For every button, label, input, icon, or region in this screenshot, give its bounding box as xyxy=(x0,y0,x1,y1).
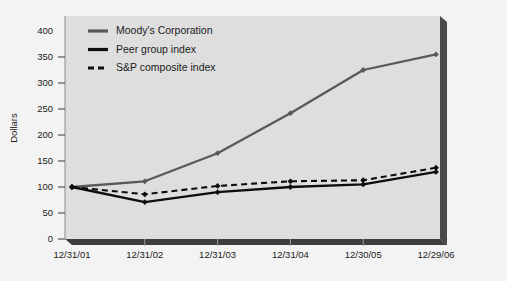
y-axis-tick-label: 100 xyxy=(37,181,53,192)
bottom-axis-floor xyxy=(65,239,447,245)
stock-performance-chart: 050100150200250300350400 Dollars 12/31/0… xyxy=(0,0,507,281)
x-axis-tick-label: 12/31/03 xyxy=(199,249,236,260)
right-axis-wall xyxy=(440,16,447,245)
y-axis-tick-label: 300 xyxy=(37,77,53,88)
legend-label: Peer group index xyxy=(116,43,197,55)
x-axis-tick-label: 12/31/02 xyxy=(126,249,163,260)
x-axis-tick-label: 12/29/06 xyxy=(418,249,455,260)
y-axis-tick-label: 0 xyxy=(48,233,53,244)
legend-label: Moody's Corporation xyxy=(116,24,213,36)
y-axis-tick-label: 250 xyxy=(37,103,53,114)
y-axis-tick-label: 400 xyxy=(37,25,53,36)
y-axis-tick-label: 50 xyxy=(42,207,53,218)
y-axis-tick-label: 150 xyxy=(37,155,53,166)
y-axis-tick-label: 350 xyxy=(37,51,53,62)
chart-canvas: 050100150200250300350400 Dollars 12/31/0… xyxy=(0,0,507,281)
y-axis-tick-label: 200 xyxy=(37,129,53,140)
x-axis-tick-label: 12/31/01 xyxy=(54,249,91,260)
y-axis-title: Dollars xyxy=(8,113,19,143)
legend-label: S&P composite index xyxy=(116,61,216,73)
x-axis-tick-label: 12/31/04 xyxy=(272,249,309,260)
x-axis-tick-label: 12/30/05 xyxy=(345,249,382,260)
